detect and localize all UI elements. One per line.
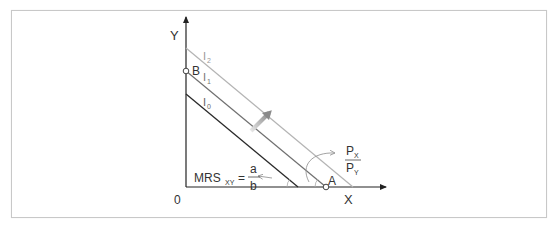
svg-text:=: = bbox=[238, 171, 245, 185]
svg-text:a: a bbox=[250, 162, 257, 176]
price-ratio: P X P Y bbox=[345, 144, 361, 176]
point-b bbox=[183, 68, 189, 74]
svg-text:I: I bbox=[203, 96, 206, 108]
svg-text:1: 1 bbox=[207, 78, 211, 85]
label-i2: I 2 bbox=[203, 50, 211, 64]
mrs-pointer bbox=[258, 176, 272, 178]
y-axis-label: Y bbox=[170, 28, 179, 43]
svg-text:XY: XY bbox=[225, 179, 235, 186]
svg-text:X: X bbox=[354, 152, 359, 159]
label-i1: I 1 bbox=[203, 71, 211, 85]
svg-text:P: P bbox=[346, 161, 354, 175]
line-i2 bbox=[186, 48, 353, 187]
diagram-canvas: Y X 0 B A I 2 I 1 I 0 MRS XY = a b P X P… bbox=[0, 0, 556, 225]
point-a-label: A bbox=[328, 174, 336, 188]
svg-text:0: 0 bbox=[207, 103, 211, 110]
svg-text:I: I bbox=[203, 50, 206, 62]
shift-arrow-icon bbox=[251, 113, 269, 131]
svg-text:b: b bbox=[250, 179, 257, 193]
svg-text:Y: Y bbox=[354, 169, 359, 176]
point-b-label: B bbox=[192, 64, 200, 78]
x-axis-label: X bbox=[344, 192, 353, 207]
svg-text:MRS: MRS bbox=[194, 171, 221, 185]
label-i0: I 0 bbox=[203, 96, 211, 110]
svg-text:P: P bbox=[346, 144, 354, 158]
mrs-formula: MRS XY = a b bbox=[194, 162, 260, 193]
origin-label: 0 bbox=[174, 193, 181, 207]
svg-text:2: 2 bbox=[207, 57, 211, 64]
svg-text:I: I bbox=[203, 71, 206, 83]
